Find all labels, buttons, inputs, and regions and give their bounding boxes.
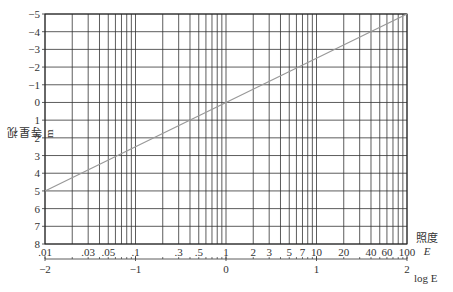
y-axis-label-container: 视星等 m	[3, 58, 21, 138]
x-tick-label: .5	[195, 246, 204, 258]
x-tick-label: 3	[266, 246, 272, 258]
x-tick-label: .03	[81, 246, 95, 258]
log-axis-label: log E	[414, 272, 438, 284]
log-e-axis: −2−1012	[39, 256, 410, 275]
log-axis-tick-label: −2	[39, 263, 51, 275]
y-axis-label: 视星等 m	[7, 118, 23, 138]
y-tick-label: 5	[35, 185, 41, 197]
x-tick-label: .05	[101, 246, 115, 258]
log-axis-tick-label: 0	[223, 263, 229, 275]
x-axis-ticks: .01.03.05.1.3.51235710204060100	[38, 246, 416, 258]
log-axis-tick-label: 2	[404, 263, 410, 275]
y-tick-label: −4	[28, 26, 40, 38]
x-tick-label: 20	[338, 246, 350, 258]
y-tick-label: −5	[28, 8, 40, 20]
x-axis-label-text: 照度	[416, 232, 438, 245]
x-axis-label: 照度 E	[416, 232, 438, 258]
x-tick-label: 7	[300, 246, 306, 258]
log-axis-tick-label: 1	[314, 263, 320, 275]
x-tick-label: 40	[365, 246, 377, 258]
x-tick-label: 2	[250, 246, 256, 258]
y-tick-label: 1	[35, 114, 41, 126]
y-tick-label: 3	[35, 150, 41, 162]
y-tick-label: 0	[35, 96, 41, 108]
x-tick-label: .3	[175, 246, 184, 258]
x-axis-label-symbol: E	[416, 245, 438, 258]
y-tick-label: −2	[28, 61, 40, 73]
y-tick-label: −1	[28, 79, 40, 91]
y-tick-label: 6	[35, 203, 41, 215]
chart-canvas: −5−4−3−2−1012345678 .01.03.05.1.3.512357…	[0, 0, 453, 292]
grid-lines	[45, 14, 407, 244]
y-tick-label: 7	[35, 220, 41, 232]
y-tick-label: 4	[35, 167, 41, 179]
x-tick-label: 60	[381, 246, 393, 258]
x-tick-label: 5	[287, 246, 293, 258]
y-tick-label: −3	[28, 43, 40, 55]
log-axis-tick-label: −1	[130, 263, 142, 275]
